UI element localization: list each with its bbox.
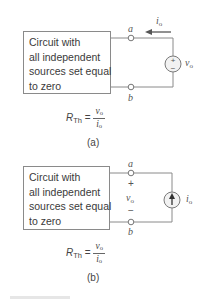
box-line: all independent	[29, 50, 110, 65]
thevenin-equation-a: RTh = vo io	[66, 106, 105, 131]
voltage-label: vo	[126, 192, 134, 205]
cropped-footer-strip	[10, 296, 70, 299]
caption-a: (a)	[87, 137, 99, 148]
plus-sign: +	[128, 178, 134, 189]
thevenin-equation-b: RTh = vo io	[66, 241, 105, 266]
voltage-label: vo	[185, 57, 193, 70]
box-line: Circuit with	[29, 170, 109, 185]
terminal-b-label: b	[128, 92, 133, 103]
current-source-icon	[164, 192, 180, 208]
terminal-a-node	[128, 35, 134, 41]
voltage-source-icon: + −	[165, 56, 181, 73]
box-line: to zero	[29, 79, 110, 94]
current-label: io	[156, 15, 162, 28]
terminal-b-label: b	[128, 226, 133, 237]
current-label: io	[186, 193, 192, 206]
terminal-a-label: a	[128, 23, 133, 34]
box-line: all independent	[29, 185, 109, 200]
terminal-b-node	[128, 219, 134, 225]
terminal-b-node	[128, 84, 134, 90]
svg-text:−: −	[171, 64, 176, 73]
box-line: sources set equal	[29, 199, 109, 214]
caption-b: (b)	[87, 272, 99, 283]
minus-sign: −	[128, 205, 134, 216]
panel-b-current-source-test: Circuit with all independent sources set…	[0, 150, 206, 290]
circuit-block-a: Circuit with all independent sources set…	[23, 31, 111, 94]
current-arrow-left-icon	[145, 29, 171, 35]
terminal-a-label: a	[128, 158, 133, 169]
circuit-block-b: Circuit with all independent sources set…	[23, 166, 110, 230]
box-line: Circuit with	[29, 35, 110, 50]
box-line: to zero	[29, 214, 109, 229]
box-line: sources set equal	[29, 64, 110, 79]
terminal-a-node	[128, 170, 134, 176]
panel-a-voltage-source-test: + − Circuit with all independent sources…	[0, 0, 206, 150]
